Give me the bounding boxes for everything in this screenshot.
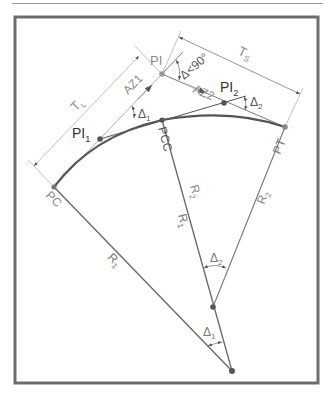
compound-curve-diagram: PI PI1 PI2 PCC PT PC AZ1 AZ2 Δ<90° Δ1 Δ2… bbox=[0, 0, 335, 394]
point-pt bbox=[282, 124, 288, 130]
point-pcc bbox=[159, 117, 164, 122]
point-pi1 bbox=[97, 136, 103, 142]
point-o1 bbox=[229, 368, 235, 374]
point-pi bbox=[159, 71, 165, 77]
label-pi: PI bbox=[150, 53, 162, 68]
point-pi2 bbox=[221, 100, 227, 106]
point-o2 bbox=[210, 304, 216, 310]
